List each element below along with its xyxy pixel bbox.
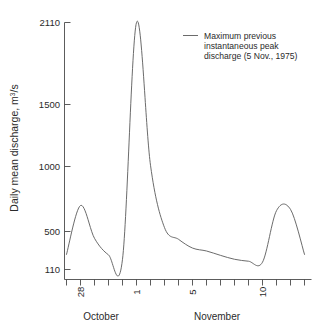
x-tick-label: 28 (75, 287, 86, 298)
legend-label-line3: discharge (5 Nov., 1975) (204, 51, 298, 61)
chart-figure: Daily mean discharge, m3/s 2110 1500 100… (0, 0, 326, 327)
legend-label-line1: Maximum previous (204, 31, 276, 41)
y-axis-label-main: Daily mean discharge, m (8, 96, 20, 212)
y-tick-label: 500 (44, 226, 60, 237)
x-tick-label: 1 (131, 289, 142, 294)
svg-text:Daily mean discharge, m3/s: Daily mean discharge, m3/s (8, 84, 20, 211)
line-chart: Daily mean discharge, m3/s 2110 1500 100… (0, 0, 326, 327)
y-axis-label-tail: /s (8, 84, 20, 92)
y-tick-label: 2110 (40, 17, 60, 28)
y-tick-label: 110 (45, 264, 60, 275)
y-axis-label: Daily mean discharge, m3/s (8, 84, 20, 211)
y-tick-label: 1500 (39, 99, 60, 110)
legend-label-line2: instantaneous peak (204, 41, 279, 51)
x-tick-label: 10 (257, 287, 268, 298)
y-tick-label: 1000 (39, 161, 60, 172)
month-label-october: October (83, 311, 119, 322)
month-label-november: November (194, 311, 241, 322)
x-tick-label: 5 (187, 289, 198, 294)
